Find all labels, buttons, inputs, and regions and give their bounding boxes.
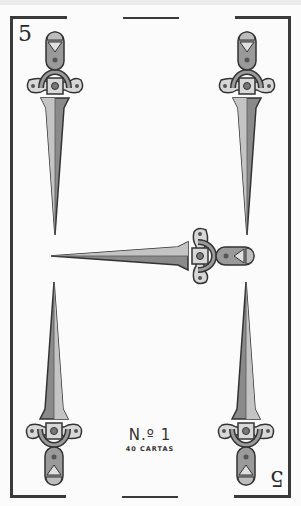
maker-subtitle: 40 CARTAS (110, 445, 190, 453)
maker-mark: N.º 1 40 CARTAS (110, 426, 190, 453)
maker-number: N.º 1 (110, 426, 190, 444)
playing-card: 5 5 (0, 5, 301, 506)
